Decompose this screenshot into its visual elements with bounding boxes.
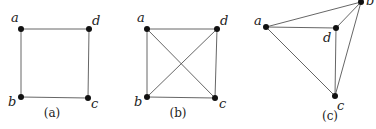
- graph-a: adbc(a): [8, 10, 100, 120]
- vertex-label-b: b: [366, 0, 374, 8]
- graph-c: abdc(c): [254, 0, 374, 123]
- vertex-label-c: c: [219, 96, 227, 111]
- edge-b-c: [21, 97, 88, 98]
- edge-a-d: [266, 27, 336, 28]
- vertex-label-a: a: [254, 13, 262, 28]
- edge-a-b: [266, 2, 361, 27]
- vertex-label-b: b: [134, 94, 142, 109]
- figure-caption: (b): [169, 106, 186, 120]
- vertex-label-a: a: [137, 10, 145, 25]
- vertex-c: [212, 95, 218, 101]
- edge-d-c: [88, 29, 89, 98]
- vertex-label-d: d: [92, 13, 100, 28]
- vertex-d: [333, 25, 339, 31]
- vertex-a: [263, 24, 269, 30]
- graph-b: adbc(b): [134, 10, 228, 120]
- vertex-label-c: c: [91, 96, 99, 111]
- edge-d-c: [335, 28, 336, 96]
- edge-b-c: [147, 97, 215, 98]
- vertex-a: [144, 26, 150, 32]
- vertex-label-d: d: [323, 30, 331, 45]
- vertex-b: [144, 94, 150, 100]
- vertex-label-d: d: [220, 13, 228, 28]
- figure-caption: (c): [322, 109, 338, 123]
- vertex-label-c: c: [337, 98, 345, 113]
- figure-caption: (a): [44, 106, 61, 120]
- vertex-b: [18, 94, 24, 100]
- vertex-a: [18, 26, 24, 32]
- vertex-label-b: b: [8, 94, 16, 109]
- graph-diagrams: adbc(a) adbc(b) abdc(c): [0, 0, 376, 129]
- edge-d-c: [215, 29, 217, 98]
- vertex-label-a: a: [11, 10, 19, 25]
